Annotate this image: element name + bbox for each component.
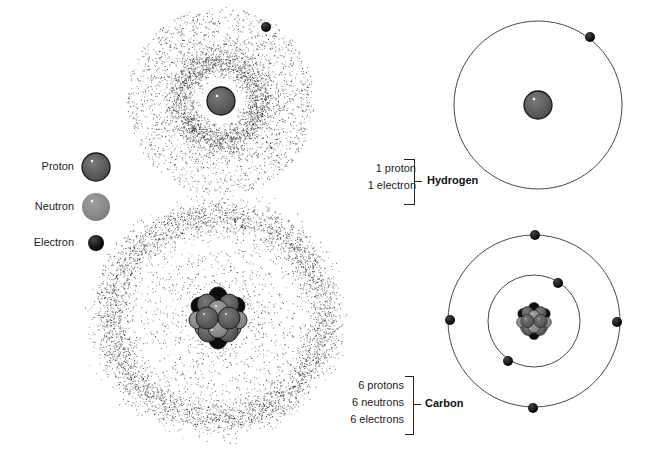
carbon-composition: 6 protons 6 neutrons 6 electrons <box>350 377 404 428</box>
carbon-bracket <box>405 376 414 435</box>
legend-proton-label: Proton <box>14 160 74 172</box>
hydrogen-bracket-tick <box>414 181 422 182</box>
electron-icon <box>528 403 538 413</box>
electron-icon <box>261 22 271 32</box>
atom-illustrations <box>0 0 648 458</box>
electron-icon <box>503 356 513 366</box>
carbon-cloud-nucleus-icon <box>189 287 247 349</box>
hydrogen-nucleus-icon <box>524 91 552 119</box>
electron-icon <box>530 230 540 240</box>
legend-neutron-label: Neutron <box>14 200 74 212</box>
legend-proton-icon <box>82 153 110 181</box>
carbon-nucleus-icon <box>517 302 552 339</box>
carbon-protons-text: 6 protons <box>350 377 404 394</box>
carbon-neutrons-text: 6 neutrons <box>350 394 404 411</box>
hydrogen-cloud-nucleus-icon <box>207 87 235 115</box>
legend-electron-label: Electron <box>14 236 74 248</box>
carbon-label: Carbon <box>425 397 464 409</box>
electron-icon <box>585 32 595 42</box>
hydrogen-label: Hydrogen <box>427 174 478 186</box>
hydrogen-bracket <box>404 159 415 205</box>
electron-icon <box>445 315 455 325</box>
carbon-electrons-text: 6 electrons <box>350 411 404 428</box>
carbon-bracket-tick <box>413 404 421 405</box>
atom-diagram: Proton Neutron Electron 1 proton 1 elect… <box>0 0 648 458</box>
hydrogen-bohr-model <box>454 21 622 189</box>
electron-icon <box>553 278 563 288</box>
electron-icon <box>612 317 622 327</box>
legend-electron-icon <box>88 235 104 251</box>
carbon-bohr-model <box>445 230 622 413</box>
legend-neutron-icon <box>82 193 110 221</box>
